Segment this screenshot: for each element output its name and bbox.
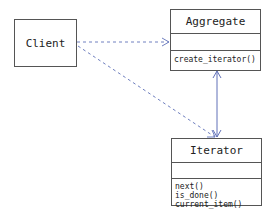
iterator-attributes (172, 163, 261, 179)
iterator-operations: next() is_done() current_item() (172, 179, 261, 211)
iterator-operation: is_done() (175, 191, 258, 200)
iterator-class-box: Iterator next() is_done() current_item() (171, 138, 262, 206)
iterator-operation: current_item() (175, 200, 258, 209)
aggregate-operation: create_iterator() (174, 55, 257, 64)
iterator-operation: next() (175, 182, 258, 191)
aggregate-attributes (171, 34, 260, 51)
edge-aggregate-iterator (213, 71, 221, 137)
aggregate-operations: create_iterator() (171, 51, 260, 66)
edge-client-aggregate (77, 38, 169, 46)
client-label: Client (26, 37, 66, 50)
client-box: Client (14, 19, 77, 67)
aggregate-class-name: Aggregate (171, 10, 260, 34)
iterator-class-name: Iterator (172, 139, 261, 163)
aggregate-class-box: Aggregate create_iterator() (170, 9, 261, 71)
